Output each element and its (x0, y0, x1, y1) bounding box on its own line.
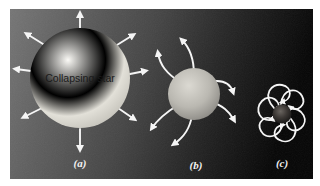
collapsed-star-sphere (168, 68, 220, 120)
black-hole-sphere (273, 105, 292, 124)
collapsing-star-label: Collapsing star (45, 72, 115, 84)
collapse-diagram: Collapsing star (a) (b) (10, 9, 313, 179)
figure-image-panel: Collapsing star (a) (b) (10, 9, 313, 179)
panel-c-caption: (c) (276, 157, 288, 170)
panel-b-caption: (b) (190, 159, 203, 172)
figure-root: Collapsing star (a) (b) (0, 0, 320, 186)
panel-a-caption: (a) (74, 157, 87, 170)
